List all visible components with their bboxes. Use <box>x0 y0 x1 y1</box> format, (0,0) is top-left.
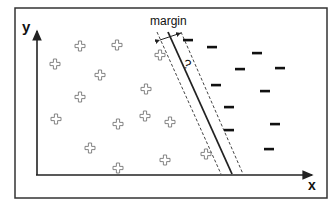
minus-point-icon <box>224 129 234 132</box>
minus-point-icon <box>275 67 285 70</box>
plus-point-icon <box>51 114 61 124</box>
decision-boundary <box>168 32 232 174</box>
minus-point-icon <box>207 46 217 49</box>
plus-point-icon <box>95 70 105 80</box>
plus-point-icon <box>85 143 95 153</box>
question-mark: ? <box>181 56 193 73</box>
plus-point-icon <box>113 119 123 129</box>
plus-point-icon <box>201 149 211 159</box>
negative-points <box>183 39 285 151</box>
plus-point-icon <box>75 41 85 51</box>
margin-line-right <box>181 32 243 174</box>
minus-point-icon <box>270 123 280 126</box>
minus-point-icon <box>252 52 262 55</box>
plus-point-icon <box>140 111 150 121</box>
minus-point-icon <box>224 106 234 109</box>
plus-point-icon <box>112 40 122 50</box>
minus-point-icon <box>260 90 270 93</box>
minus-point-icon <box>183 39 193 42</box>
plus-point-icon <box>165 117 175 127</box>
minus-point-icon <box>235 68 245 71</box>
plus-point-icon <box>160 155 170 165</box>
plus-point-icon <box>113 163 123 173</box>
minus-point-icon <box>264 148 274 151</box>
plus-point-icon <box>141 84 151 94</box>
plus-point-icon <box>75 92 85 102</box>
minus-point-icon <box>211 84 221 87</box>
margin-label: margin <box>150 14 187 28</box>
svm-margin-diagram: y x margin ? <box>0 0 336 210</box>
plus-point-icon <box>155 50 165 60</box>
x-axis-label: x <box>308 177 316 193</box>
y-axis-label: y <box>22 18 31 35</box>
plus-point-icon <box>50 59 60 69</box>
